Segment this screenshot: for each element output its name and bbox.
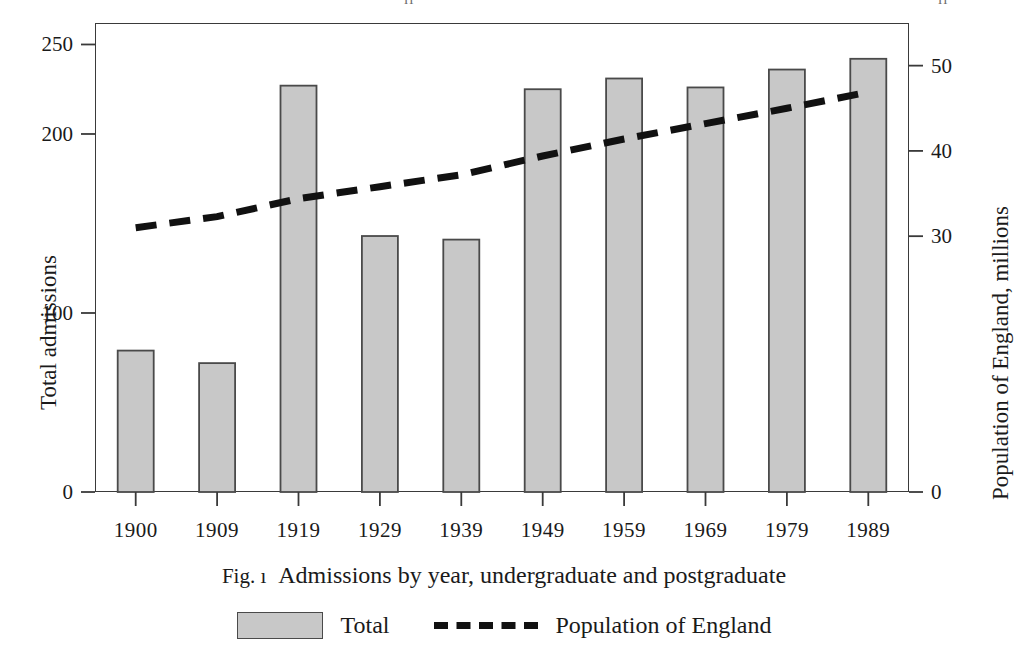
left-tick-label-200: 200 [0, 123, 73, 144]
chart-legend: Total Population of England [0, 612, 1008, 639]
population-line-group [136, 92, 869, 228]
left-axis-title: Total admissions [36, 255, 62, 410]
x-tick-label-1949: 1949 [521, 520, 565, 541]
x-tick-label-1929: 1929 [358, 520, 402, 541]
figure-caption-number: Fig. ı [222, 564, 266, 588]
left-tick-label-0: 0 [0, 482, 73, 503]
bar-1989 [850, 59, 886, 492]
x-tick-label-1959: 1959 [602, 520, 646, 541]
right-tick-label-30: 30 [931, 226, 952, 247]
x-tick-label-1969: 1969 [684, 520, 728, 541]
right-tick-label-40: 40 [931, 140, 952, 161]
bar-1939 [443, 240, 479, 492]
x-tick-label-1939: 1939 [439, 520, 483, 541]
right-axis-title: Population of England, millions [988, 206, 1014, 500]
legend-bar-swatch-icon [237, 612, 323, 639]
x-tick-label-1989: 1989 [846, 520, 890, 541]
legend-label-population: Population of England [556, 612, 772, 639]
population-line [136, 92, 869, 228]
x-tick-label-1919: 1919 [277, 520, 321, 541]
right-tick-label-50: 50 [931, 55, 952, 76]
right-tick-label-0: 0 [931, 482, 942, 503]
bar-1929 [362, 236, 398, 492]
bar-1969 [688, 87, 724, 492]
bar-1900 [118, 351, 154, 492]
x-tick-label-1909: 1909 [195, 520, 239, 541]
legend-label-total: Total [341, 612, 390, 639]
bars-group [118, 59, 887, 492]
legend-entry-total: Total [237, 612, 390, 639]
legend-dashed-line-icon [434, 622, 538, 629]
bar-1909 [199, 363, 235, 492]
bar-1979 [769, 70, 805, 492]
bar-1919 [281, 86, 317, 492]
figure-caption: Fig. ı Admissions by year, undergraduate… [0, 562, 1008, 589]
x-tick-label-1900: 1900 [114, 520, 158, 541]
figure-caption-text: Admissions by year, undergraduate and po… [278, 562, 786, 588]
bar-1949 [525, 89, 561, 492]
legend-entry-population: Population of England [434, 612, 772, 639]
left-tick-label-250: 250 [0, 34, 73, 55]
x-tick-label-1979: 1979 [765, 520, 809, 541]
